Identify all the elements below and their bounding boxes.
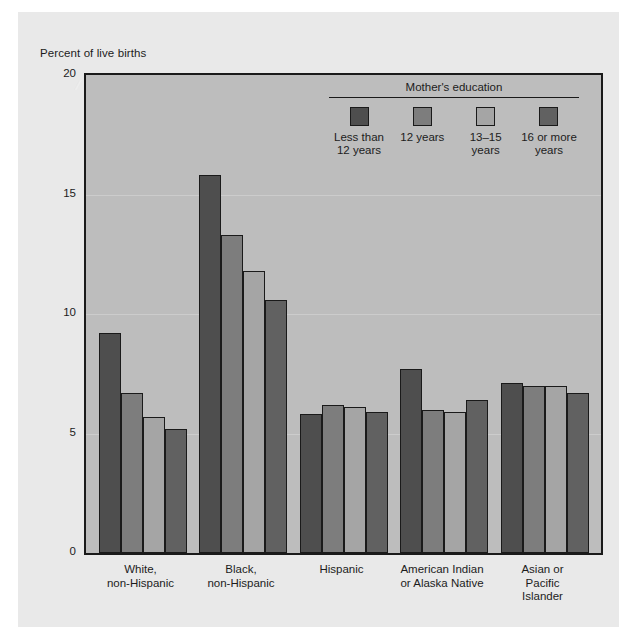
legend-label: Less than 12 years: [329, 131, 389, 157]
legend-item: 12 years: [392, 107, 452, 157]
legend-label: 16 or more years: [519, 131, 579, 157]
figure-panel: Percent of live births Mother's educatio…: [18, 12, 619, 627]
legend-items: Less than 12 years12 years13–15 years16 …: [329, 107, 579, 157]
bar-group: [99, 75, 187, 553]
bar: [243, 271, 265, 553]
bar: [366, 412, 388, 553]
legend-title: Mother's education: [329, 81, 579, 93]
legend-item: Less than 12 years: [329, 107, 389, 157]
bar: [422, 410, 444, 553]
legend-swatch: [413, 107, 432, 126]
bar: [344, 407, 366, 553]
bar: [199, 175, 221, 553]
legend-swatch: [350, 107, 369, 126]
bar: [567, 393, 589, 553]
bar: [265, 300, 287, 553]
legend: Mother's education Less than 12 years12 …: [329, 81, 579, 157]
legend-divider: [329, 97, 579, 98]
bar: [121, 393, 143, 553]
legend-swatch: [476, 107, 495, 126]
legend-item: 13–15 years: [456, 107, 516, 157]
bar: [143, 417, 165, 553]
legend-item: 16 or more years: [519, 107, 579, 157]
bar: [322, 405, 344, 553]
bar: [400, 369, 422, 553]
bar: [545, 386, 567, 553]
legend-label: 12 years: [392, 131, 452, 144]
bar: [99, 333, 121, 553]
bar-group: [199, 75, 287, 553]
bar: [221, 235, 243, 553]
bar: [523, 386, 545, 553]
legend-swatch: [539, 107, 558, 126]
bar: [444, 412, 466, 553]
bar: [300, 414, 322, 553]
bar: [466, 400, 488, 553]
legend-label: 13–15 years: [456, 131, 516, 157]
y-axis-title: Percent of live births: [40, 47, 146, 59]
bar: [501, 383, 523, 553]
bar: [165, 429, 187, 553]
